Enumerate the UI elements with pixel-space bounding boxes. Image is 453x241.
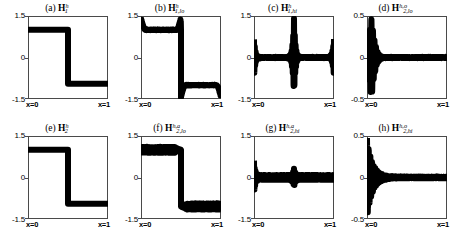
curve-h: [367, 136, 447, 219]
x-axis-label-right-f: x=1: [211, 220, 223, 229]
plot-area-h: 0.50-0.5x=0x=1: [367, 136, 447, 219]
x-axis-label-left-f: x=0: [139, 220, 151, 229]
y-tick-label-b-2: -1.5: [125, 95, 138, 104]
symbol-subscript-b: 1,lo: [175, 7, 184, 14]
plot-area-c: 1.50-1.5x=0x=1: [254, 16, 334, 99]
y-tick-label-c-2: -1.5: [238, 95, 251, 104]
panel-symbol-g: Hh,a2,hi: [279, 123, 300, 133]
x-axis-label-right-h: x=1: [437, 220, 449, 229]
curve-path-d: [367, 19, 447, 92]
y-tick-label-d-2: -0.5: [351, 95, 364, 104]
curve-e: [28, 136, 108, 219]
x-axis-label-right-c: x=1: [324, 100, 336, 109]
curve-b: [141, 16, 221, 99]
y-tick-label-a-0: 1.5: [14, 11, 25, 20]
symbol-subscript-g: 2,hi: [290, 127, 299, 134]
plot-area-f: 1.50-1.5x=0x=1: [141, 136, 221, 219]
plot-area-e: 1.50-1.5x=0x=1: [28, 136, 108, 219]
y-tick-label-b-0: 1.5: [127, 11, 138, 20]
panel-symbol-a: Hh1: [58, 3, 68, 13]
panel-symbol-b: Hh1,lo: [168, 3, 184, 13]
y-tick-label-g-2: -1.5: [238, 215, 251, 224]
chart-panel-b: (b) Hh1,lo1.50-1.5x=0x=1: [113, 0, 226, 120]
y-tick-label-d-0: 0.5: [353, 11, 364, 20]
curve-a: [28, 16, 108, 99]
symbol-subscript-c: 1,hi: [288, 7, 297, 14]
plot-area-d: 0.50-0.5x=0x=1: [367, 16, 447, 99]
x-axis-label-right-a: x=1: [98, 100, 110, 109]
x-axis-label-right-d: x=1: [437, 100, 449, 109]
curve-path-a: [28, 30, 108, 84]
panel-label-e: (e): [45, 123, 56, 133]
curve-path-c: [254, 18, 334, 86]
symbol-subscript-f: 2,lo: [176, 127, 185, 134]
plot-area-a: 1.50-1.5x=0x=1: [28, 16, 108, 99]
plot-area-g: 1.50-1.5x=0x=1: [254, 136, 334, 219]
curve-c: [254, 16, 334, 99]
chart-panel-e: (e) Hh21.50-1.5x=0x=1: [0, 120, 113, 240]
y-tick-label-g-0: 1.5: [240, 131, 251, 140]
curve-path-g: [254, 161, 334, 190]
chart-panel-f: (f) Hh,a2,lo1.50-1.5x=0x=1: [113, 120, 226, 240]
y-tick-label-f-0: 1.5: [127, 131, 138, 140]
x-axis-label-left-h: x=0: [365, 220, 377, 229]
curve-path-b: [141, 17, 221, 97]
y-tick-label-h-2: -0.5: [351, 215, 364, 224]
chart-panel-a: (a) Hh11.50-1.5x=0x=1: [0, 0, 113, 120]
plot-area-b: 1.50-1.5x=0x=1: [141, 16, 221, 99]
y-tick-label-f-2: -1.5: [125, 215, 138, 224]
x-axis-label-left-c: x=0: [252, 100, 264, 109]
x-axis-label-right-e: x=1: [98, 220, 110, 229]
panel-symbol-d: Hh,o2,lo: [392, 3, 413, 13]
chart-panel-c: (c) Hh1,hi1.50-1.5x=0x=1: [226, 0, 339, 120]
panel-symbol-e: Hh2: [58, 123, 68, 133]
panel-symbol-h: Hh,o2,hi: [392, 123, 413, 133]
panel-label-h: (h): [378, 123, 389, 133]
figure-panel-grid: (a) Hh11.50-1.5x=0x=1(b) Hh1,lo1.50-1.5x…: [0, 0, 453, 241]
curve-g: [254, 136, 334, 219]
chart-panel-h: (h) Hh,o2,hi0.50-0.5x=0x=1: [339, 120, 452, 240]
symbol-subscript-e: 2: [65, 127, 68, 134]
y-tick-label-a-2: -1.5: [12, 95, 25, 104]
x-axis-label-left-b: x=0: [139, 100, 151, 109]
x-axis-label-left-a: x=0: [26, 100, 38, 109]
x-axis-label-right-g: x=1: [324, 220, 336, 229]
symbol-subscript-d: 2,lo: [403, 7, 412, 14]
y-tick-label-e-0: 1.5: [14, 131, 25, 140]
x-axis-label-left-d: x=0: [365, 100, 377, 109]
symbol-subscript-a: 1: [65, 7, 68, 14]
x-axis-label-right-b: x=1: [211, 100, 223, 109]
symbol-subscript-h: 2,hi: [403, 127, 412, 134]
curve-path-h: [367, 138, 447, 212]
panel-label-b: (b): [155, 3, 166, 13]
x-axis-label-left-e: x=0: [26, 220, 38, 229]
panel-symbol-f: Hh,a2,lo: [165, 123, 186, 133]
curve-path-e: [28, 150, 108, 204]
panel-label-f: (f): [153, 123, 163, 133]
panel-label-c: (c): [268, 3, 279, 13]
curve-path-f: [141, 147, 221, 210]
chart-panel-g: (g) Hh,a2,hi1.50-1.5x=0x=1: [226, 120, 339, 240]
curve-f: [141, 136, 221, 219]
chart-panel-d: (d) Hh,o2,lo0.50-0.5x=0x=1: [339, 0, 452, 120]
y-tick-label-h-0: 0.5: [353, 131, 364, 140]
panel-label-a: (a): [45, 3, 56, 13]
panel-label-g: (g): [265, 123, 276, 133]
y-tick-label-c-0: 1.5: [240, 11, 251, 20]
panel-symbol-c: Hh1,hi: [281, 3, 297, 13]
panel-label-d: (d): [378, 3, 389, 13]
curve-d: [367, 16, 447, 99]
x-axis-label-left-g: x=0: [252, 220, 264, 229]
y-tick-label-e-2: -1.5: [12, 215, 25, 224]
